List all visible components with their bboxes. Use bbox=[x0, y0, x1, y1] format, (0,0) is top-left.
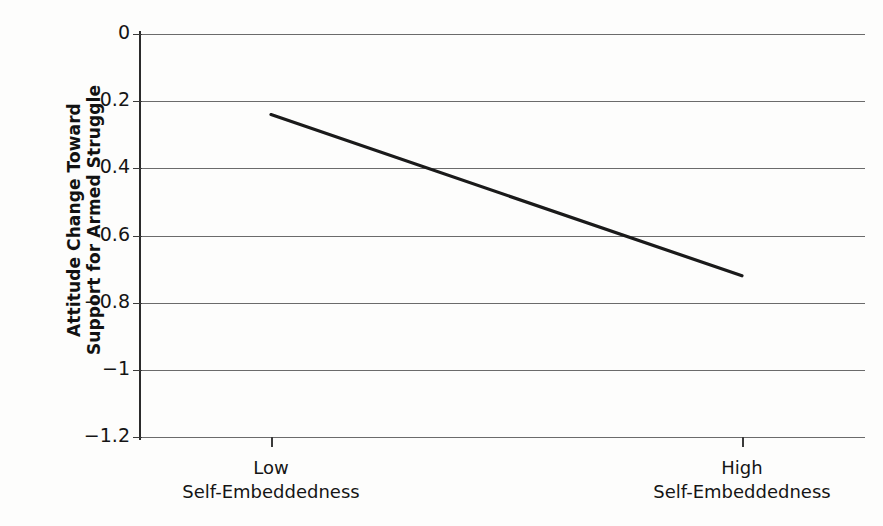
y-axis-tick bbox=[133, 303, 142, 304]
y-axis-tick bbox=[133, 437, 142, 438]
gridline bbox=[141, 34, 865, 35]
y-axis-tick-label: −1.2 bbox=[84, 424, 130, 446]
x-axis-tick bbox=[742, 437, 744, 447]
gridline bbox=[141, 236, 865, 237]
gridline bbox=[141, 303, 865, 304]
y-axis-tick-label: 0.6 bbox=[100, 223, 130, 245]
x-axis-tick-label-line-2: Self-Embeddedness bbox=[182, 480, 359, 504]
y-axis-tick-label: 0.4 bbox=[100, 155, 130, 177]
y-axis-tick bbox=[133, 370, 142, 371]
y-tick-label-group: 00.20.40.6−0.8−1−1.2 bbox=[0, 0, 130, 526]
gridline bbox=[141, 101, 865, 102]
y-axis-tick-label: 0 bbox=[118, 21, 130, 43]
x-axis-tick-label: LowSelf-Embeddedness bbox=[182, 456, 359, 505]
y-axis-tick bbox=[133, 168, 142, 169]
gridline bbox=[141, 437, 865, 438]
plot-area bbox=[141, 34, 865, 437]
x-axis-tick-label: HighSelf-Embeddedness bbox=[653, 456, 830, 505]
x-axis-tick-label-line-1: High bbox=[653, 456, 830, 480]
y-axis-tick bbox=[133, 101, 142, 102]
y-axis-tick bbox=[133, 236, 142, 237]
gridline bbox=[141, 370, 865, 371]
y-axis-tick-label: 0.2 bbox=[100, 88, 130, 110]
chart-figure: Attitude Change Toward Support for Armed… bbox=[0, 0, 883, 526]
x-axis-tick bbox=[271, 437, 273, 447]
x-axis-tick-label-line-1: Low bbox=[182, 456, 359, 480]
y-axis-tick-label: −1 bbox=[102, 357, 130, 379]
x-axis-tick-label-line-2: Self-Embeddedness bbox=[653, 480, 830, 504]
y-axis-tick bbox=[133, 34, 142, 35]
gridline bbox=[141, 168, 865, 169]
y-axis-tick-label: −0.8 bbox=[84, 290, 130, 312]
